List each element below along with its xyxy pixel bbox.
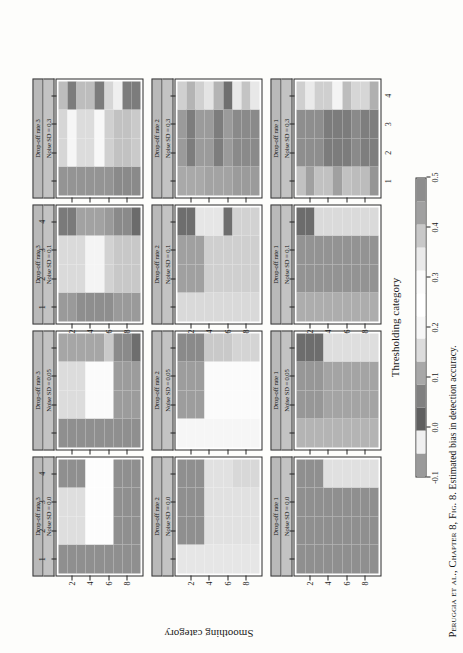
heatmap-cell (85, 110, 94, 139)
y-tick (71, 575, 72, 580)
heatmap (296, 333, 378, 447)
y-tick (245, 197, 246, 202)
y-tick (126, 323, 127, 328)
panel-plot-area (55, 78, 143, 198)
x-tick (51, 530, 56, 531)
panel-grid-container: Drop-off rate 3Noise SD = 0.012342468Dro… (30, 75, 387, 579)
color-key-labels: -0.10.00.10.20.30.40.5 (430, 177, 442, 477)
heatmap (177, 207, 259, 321)
x-tick (170, 347, 175, 348)
heatmap-cell (76, 516, 85, 545)
heatmap-cell (67, 488, 76, 517)
heatmap-cell (204, 138, 213, 167)
heatmap-cell (104, 488, 113, 517)
x-tick (170, 404, 175, 405)
heatmap-cell (332, 545, 341, 574)
heatmap-cell (342, 516, 351, 545)
heatmap-cell (213, 419, 222, 448)
heatmap-cell (296, 138, 305, 167)
heatmap-cell (241, 545, 250, 574)
x-tick-marks (289, 207, 294, 321)
heatmap-cell (195, 516, 204, 545)
heatmap-cell (296, 459, 305, 488)
heatmap-cell (323, 419, 332, 448)
color-key-tick (426, 226, 430, 227)
heatmap-cell (58, 81, 67, 110)
heatmap-cell (314, 207, 323, 236)
heatmap-cell (204, 264, 213, 293)
heatmap-cell (296, 362, 305, 391)
heatmap-cell (122, 488, 131, 517)
y-tick (108, 323, 109, 328)
heatmap-cell (113, 110, 122, 139)
heatmap-cell (122, 264, 131, 293)
heatmap-cell (213, 293, 222, 322)
heatmap-cell (305, 362, 314, 391)
color-key-tick-label: 0.4 (430, 222, 439, 232)
heatmap-cell (94, 419, 103, 448)
strip-label-dropoff: Drop-off rate 2 (151, 204, 162, 324)
x-tick-marks (170, 459, 175, 573)
x-tick (289, 221, 294, 222)
heatmap-cell (296, 419, 305, 448)
y-tick-labels: 2468 (296, 329, 378, 343)
heatmap-cell (104, 516, 113, 545)
heatmap-cell (296, 207, 305, 236)
heatmap-cell (113, 516, 122, 545)
heatmap-cell (104, 264, 113, 293)
heatmap-cell (104, 138, 113, 167)
heatmap-cell (177, 390, 186, 419)
x-tick-label: 2 (37, 276, 49, 280)
y-tick (71, 197, 72, 202)
x-tick (51, 501, 56, 502)
heatmap-cell (76, 390, 85, 419)
heatmap-cell (213, 264, 222, 293)
x-tick (51, 249, 56, 250)
heatmap-cell (241, 167, 250, 196)
x-tick-marks (170, 333, 175, 447)
y-tick (89, 323, 90, 328)
heatmap-cell (332, 419, 341, 448)
y-tick-marks (296, 575, 378, 580)
heatmap-cell (223, 236, 232, 265)
y-tick (245, 575, 246, 580)
heatmap-cell (305, 81, 314, 110)
y-tick (309, 575, 310, 580)
x-tick (289, 180, 294, 181)
heatmap-cell (186, 167, 195, 196)
heatmap-cell (204, 419, 213, 448)
heatmap-cell (113, 207, 122, 236)
y-tick-label: 2 (305, 581, 314, 585)
x-tick-marks (51, 81, 56, 195)
strip-label-dropoff: Drop-off rate 1 (270, 456, 281, 576)
heatmap-cell (332, 488, 341, 517)
y-tick (208, 197, 209, 202)
heatmap-cell (250, 264, 259, 293)
y-tick-marks (177, 575, 259, 580)
x-tick (170, 306, 175, 307)
heatmap-cell (76, 110, 85, 139)
y-tick (108, 197, 109, 202)
heatmap-cell (314, 516, 323, 545)
heatmap-cell (305, 390, 314, 419)
heatmap-cell (104, 419, 113, 448)
y-tick (245, 323, 246, 328)
x-tick (170, 530, 175, 531)
heatmap-cell (94, 167, 103, 196)
y-tick-label: 4 (323, 581, 332, 585)
heatmap-cell (67, 545, 76, 574)
heatmap-cell (342, 138, 351, 167)
heatmap (58, 459, 140, 573)
heatmap-cell (232, 167, 241, 196)
heatmap-cell (177, 419, 186, 448)
heatmap-cell (296, 545, 305, 574)
x-tick-marks (170, 207, 175, 321)
x-tick (170, 123, 175, 124)
heatmap-cell (369, 138, 378, 167)
figure-caption: Peruggia et al., Chapter 8, Fig. 8. Esti… (446, 345, 457, 637)
y-tick-label: 8 (241, 329, 250, 333)
heatmap-cell (232, 81, 241, 110)
x-tick (289, 95, 294, 96)
y-tick-label: 6 (104, 581, 113, 585)
y-tick (227, 323, 228, 328)
